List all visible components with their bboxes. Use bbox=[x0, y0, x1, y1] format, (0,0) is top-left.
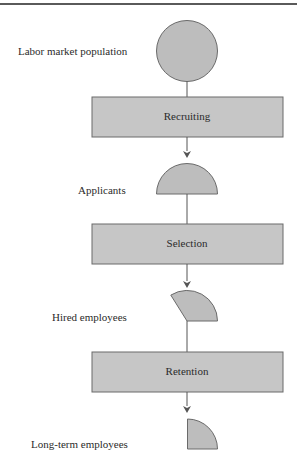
label-hired-employees: Hired employees bbox=[52, 311, 127, 324]
labor-market-circle bbox=[157, 21, 218, 82]
label-selection: Selection bbox=[167, 237, 208, 250]
hired-employees-sector bbox=[171, 290, 218, 321]
long-term-quarter-circle bbox=[188, 419, 218, 449]
applicants-half-circle bbox=[157, 164, 218, 194]
arrowhead-icon bbox=[183, 281, 191, 288]
arrowhead-icon bbox=[183, 406, 191, 413]
label-long-term-employees: Long-term employees bbox=[31, 438, 128, 451]
label-applicants: Applicants bbox=[78, 184, 126, 197]
arrowhead-icon bbox=[183, 151, 191, 158]
label-retention: Retention bbox=[166, 365, 209, 378]
label-labor-market-population: Labor market population bbox=[18, 45, 127, 58]
funnel-diagram bbox=[0, 0, 297, 471]
label-recruiting: Recruiting bbox=[164, 110, 210, 123]
